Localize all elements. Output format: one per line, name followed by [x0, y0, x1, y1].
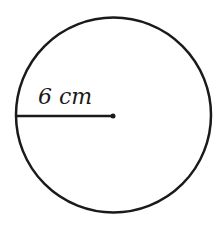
circle-diagram: 6 cm	[0, 0, 222, 227]
radius-label: 6 cm	[38, 84, 92, 109]
center-point	[111, 114, 116, 119]
